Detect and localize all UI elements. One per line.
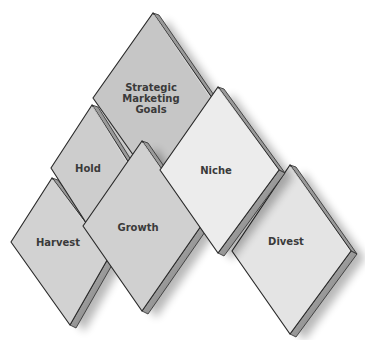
diamond-label-strategic: StrategicMarketingGoals [122,82,179,115]
label-line: Hold [75,163,101,174]
label-line: Growth [117,222,158,233]
diamond-diagram [0,0,365,340]
diamond-label-hold: Hold [75,163,101,174]
label-line: Marketing [122,93,179,104]
diamond-label-harvest: Harvest [36,237,80,248]
diamond-label-divest: Divest [268,236,304,247]
label-line: Niche [200,165,232,176]
label-line: Harvest [36,237,80,248]
label-line: Divest [268,236,304,247]
diagram-canvas: HarvestHoldStrategicMarketingGoalsGrowth… [0,0,365,340]
label-line: Strategic [122,82,179,93]
diamond-label-niche: Niche [200,165,232,176]
diamond-label-growth: Growth [117,222,158,233]
label-line: Goals [122,104,179,115]
